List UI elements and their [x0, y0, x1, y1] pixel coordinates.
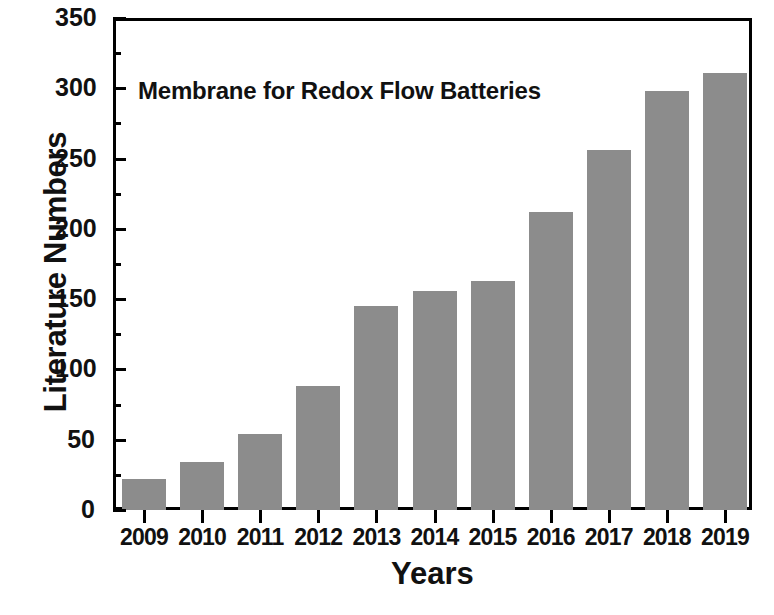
- y-minor-tick-125: [113, 333, 121, 336]
- x-tick-2017: [608, 510, 611, 523]
- y-tick-200: [113, 228, 126, 231]
- bar-2015: [471, 281, 515, 510]
- y-minor-tick-75: [113, 404, 121, 407]
- bar-2018: [645, 91, 689, 510]
- x-tick-2010: [201, 510, 204, 523]
- bar-2016: [529, 212, 573, 510]
- chart-annotation-label: Membrane for Redox Flow Batteries: [138, 77, 541, 105]
- y-minor-tick-175: [113, 263, 121, 266]
- y-tick-350: [113, 17, 126, 20]
- bar-chart-figure: 050100150200250300350 200920102011201220…: [0, 0, 774, 615]
- y-tick-label-350: 350: [55, 3, 95, 32]
- y-tick-250: [113, 158, 126, 161]
- x-tick-2009: [143, 510, 146, 523]
- bar-2009: [122, 479, 166, 510]
- x-tick-2013: [375, 510, 378, 523]
- x-tick-label-2019: 2019: [690, 524, 760, 551]
- bar-2019: [703, 73, 747, 510]
- bar-2012: [296, 386, 340, 510]
- y-minor-tick-325: [113, 52, 121, 55]
- x-tick-2018: [666, 510, 669, 523]
- bar-2013: [354, 306, 398, 510]
- y-minor-tick-225: [113, 193, 121, 196]
- bar-2011: [238, 434, 282, 510]
- y-axis-title: Literature Numbers: [38, 62, 74, 482]
- y-tick-300: [113, 87, 126, 90]
- x-tick-2016: [550, 510, 553, 523]
- y-tick-100: [113, 368, 126, 371]
- y-tick-50: [113, 439, 126, 442]
- bar-2017: [587, 150, 631, 510]
- x-tick-2012: [317, 510, 320, 523]
- x-tick-2011: [259, 510, 262, 523]
- y-minor-tick-275: [113, 122, 121, 125]
- bar-2010: [180, 462, 224, 510]
- y-minor-tick-25: [113, 474, 121, 477]
- y-tick-150: [113, 298, 126, 301]
- y-tick-0: [113, 509, 126, 512]
- x-axis-title: Years: [113, 556, 752, 592]
- bar-2014: [413, 291, 457, 510]
- x-tick-2015: [492, 510, 495, 523]
- x-tick-2014: [434, 510, 437, 523]
- x-tick-2019: [724, 510, 727, 523]
- y-tick-label-0: 0: [55, 495, 95, 524]
